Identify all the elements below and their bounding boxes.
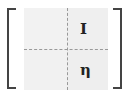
symbol-identity: I: [80, 22, 87, 37]
left-bracket: [7, 8, 16, 89]
cell-0-0: [24, 8, 67, 49]
cell-0-1: [67, 8, 108, 49]
block-matrix: [24, 8, 108, 90]
symbol-eta: η: [80, 63, 91, 78]
cell-1-0: [24, 49, 67, 90]
right-bracket: [113, 8, 122, 89]
horizontal-divider: [24, 49, 108, 50]
